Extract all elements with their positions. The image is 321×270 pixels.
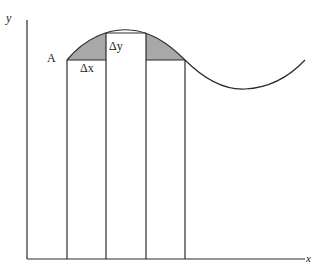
- x-axis-label: x: [305, 252, 311, 264]
- shaded-region-1: [67, 33, 106, 60]
- riemann-diagram: y x A Δx Δy: [0, 0, 321, 270]
- y-axis-label: y: [5, 11, 12, 25]
- point-a-label: A: [47, 51, 56, 65]
- delta-y-label: Δy: [109, 39, 123, 53]
- delta-x-label: Δx: [80, 61, 94, 75]
- shaded-region-2: [146, 33, 185, 60]
